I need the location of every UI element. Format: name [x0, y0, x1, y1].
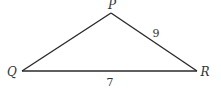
side-qp: [22, 13, 111, 71]
side-pr: [111, 13, 197, 71]
vertex-label-p: P: [107, 0, 117, 12]
triangle-diagram: P Q R 9 7: [0, 0, 221, 94]
vertex-label-r: R: [199, 65, 209, 79]
side-length-qr: 7: [107, 76, 114, 89]
vertex-label-q: Q: [7, 65, 17, 79]
side-length-pr: 9: [153, 27, 160, 40]
